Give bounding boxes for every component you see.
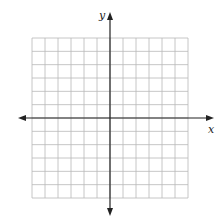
axes (18, 12, 214, 216)
y-axis-arrow-down-icon (107, 208, 113, 216)
x-axis-arrow-right-icon (206, 115, 214, 121)
y-axis-label: y (98, 9, 106, 22)
coordinate-plane: x y (0, 0, 224, 222)
y-axis-arrow-up-icon (107, 12, 113, 20)
x-axis-arrow-left-icon (18, 115, 26, 121)
x-axis-label: x (208, 123, 215, 136)
